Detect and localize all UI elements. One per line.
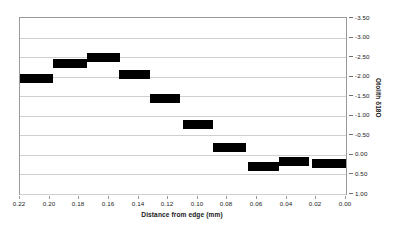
x-axis-title: Distance from edge (mm): [0, 211, 364, 218]
x-tick-label: 0.20: [37, 200, 61, 207]
y-tick-label: -2.00: [355, 72, 370, 79]
data-bar: [213, 143, 246, 152]
x-tick-mark: [108, 196, 109, 199]
y-tick-label: 0.00: [355, 150, 367, 157]
y-tick-mark: [349, 115, 353, 116]
x-tick-label: 0.12: [155, 200, 179, 207]
x-tick-label: 0.22: [7, 200, 31, 207]
x-tick-label: 0.04: [274, 200, 298, 207]
y-tick-mark: [349, 17, 353, 18]
data-bar: [279, 157, 309, 166]
data-bar: [248, 162, 279, 171]
y-tick-label: -1.50: [355, 92, 370, 99]
x-tick-mark: [49, 196, 50, 199]
otolith-isotope-chart: -3.50-3.00-2.50-2.00-1.50-1.00-0.500.000…: [0, 0, 404, 227]
x-tick-label: 0.08: [214, 200, 238, 207]
x-tick-label: 0.18: [66, 200, 90, 207]
y-tick-mark: [349, 173, 353, 174]
x-tick-mark: [256, 196, 257, 199]
y-tick-mark: [349, 154, 353, 155]
x-tick-label: 0.02: [303, 200, 327, 207]
y-tick-mark: [349, 37, 353, 38]
y-tick-label: 0.50: [355, 170, 367, 177]
y-tick-label: -1.00: [355, 111, 370, 118]
y-axis-labels: -3.50-3.00-2.50-2.00-1.50-1.00-0.500.000…: [349, 0, 389, 227]
data-bar: [53, 59, 87, 68]
plot-area: [19, 17, 347, 195]
x-tick-label: 0.06: [244, 200, 268, 207]
y-tick-mark: [349, 95, 353, 96]
x-tick-mark: [345, 196, 346, 199]
y-tick-label: -2.50: [355, 53, 370, 60]
data-bar: [312, 159, 346, 168]
x-tick-label: 0.10: [185, 200, 209, 207]
x-tick-mark: [197, 196, 198, 199]
y-tick-label: -3.00: [355, 33, 370, 40]
y-tick-mark: [349, 134, 353, 135]
data-bars-layer: [20, 18, 346, 194]
x-tick-mark: [78, 196, 79, 199]
data-bar: [119, 70, 150, 79]
x-tick-mark: [226, 196, 227, 199]
x-tick-label: 0.00: [333, 200, 357, 207]
data-bar: [20, 74, 53, 83]
y-tick-mark: [349, 193, 353, 194]
y-axis-title: Otolith δ18O: [375, 78, 382, 158]
x-tick-label: 0.16: [96, 200, 120, 207]
x-tick-label: 0.14: [126, 200, 150, 207]
x-tick-mark: [315, 196, 316, 199]
gridline: [20, 194, 346, 195]
y-tick-label: -0.50: [355, 131, 370, 138]
data-bar: [87, 53, 120, 62]
y-tick-label: -3.50: [355, 14, 370, 21]
y-tick-mark: [349, 56, 353, 57]
x-tick-mark: [286, 196, 287, 199]
x-tick-mark: [167, 196, 168, 199]
data-bar: [183, 120, 213, 129]
data-bar: [150, 94, 180, 103]
x-tick-mark: [19, 196, 20, 199]
x-tick-mark: [138, 196, 139, 199]
x-axis-labels: 0.220.200.180.160.140.120.100.080.060.04…: [0, 196, 404, 210]
y-tick-mark: [349, 76, 353, 77]
